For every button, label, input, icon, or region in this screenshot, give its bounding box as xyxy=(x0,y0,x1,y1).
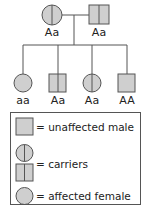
genotype-label: Aa xyxy=(37,27,67,39)
legend-label-unaffected-male: = unaffected male xyxy=(36,121,134,133)
child-female-carrier-icon xyxy=(83,74,101,92)
genotype-label: Aa xyxy=(43,95,73,107)
legend-label-affected-female: = affected female xyxy=(36,190,131,202)
genotype-label: AA xyxy=(112,95,142,107)
genotype-label: Aa xyxy=(77,95,107,107)
parent-female-carrier-icon xyxy=(42,5,62,25)
child-male-unaffected-icon xyxy=(118,74,135,92)
child-male-carrier-icon xyxy=(49,74,66,92)
parent-male-carrier-icon xyxy=(89,5,109,24)
legend-label-carriers: = carriers xyxy=(36,158,88,170)
genotype-label: aa xyxy=(8,95,38,107)
genotype-label: Aa xyxy=(84,27,114,39)
child-female-affected-icon xyxy=(14,74,32,92)
